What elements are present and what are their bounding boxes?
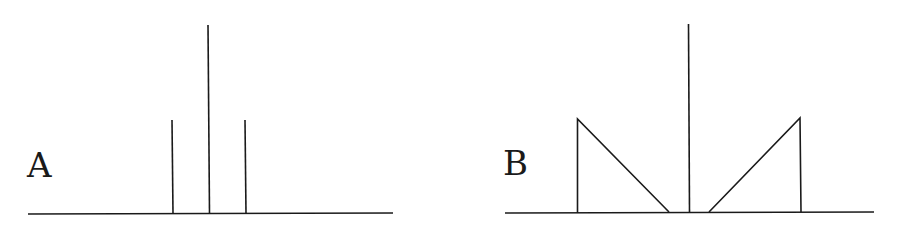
diagram-canvas: A B	[0, 0, 901, 228]
panel-a-label: A	[26, 145, 52, 185]
panel-b-right-triangle	[709, 118, 801, 212]
panel-a-baseline	[28, 213, 393, 214]
panel-b-line-center	[689, 24, 690, 212]
panel-b	[505, 24, 874, 213]
panel-b-label: B	[503, 143, 528, 183]
panel-a-line-left	[172, 120, 173, 214]
panel-b-left-triangle	[578, 119, 670, 213]
panel-b-baseline	[505, 212, 874, 213]
panel-a	[28, 25, 393, 214]
panel-a-line-right	[245, 120, 246, 214]
panel-a-line-center	[208, 25, 210, 214]
